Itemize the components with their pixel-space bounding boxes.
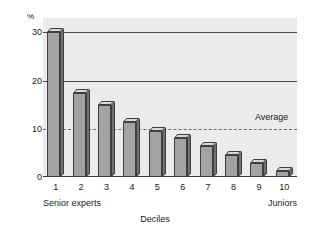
bar-front-face: [276, 171, 289, 177]
x-axis-tick-4: 4: [120, 182, 144, 193]
bar-front-face: [174, 138, 187, 177]
x-axis-title: Deciles: [0, 214, 310, 224]
bar: [225, 151, 242, 177]
bar: [250, 159, 267, 177]
x-axis-tick-5: 5: [145, 182, 169, 193]
gridline-20: [43, 81, 297, 82]
bar-front-face: [123, 122, 136, 177]
bar-side-face: [162, 128, 166, 177]
x-axis-tick-8: 8: [222, 182, 246, 193]
gridline-30: [43, 32, 297, 33]
bar-front-face: [73, 93, 86, 177]
x-axis-tick-7: 7: [196, 182, 220, 193]
bar: [276, 167, 293, 177]
axis-end-label-left: Senior experts: [43, 198, 101, 208]
bar: [73, 89, 90, 177]
bar-side-face: [86, 89, 90, 177]
x-axis-tick-10: 10: [272, 182, 296, 193]
bar-front-face: [225, 155, 238, 177]
bar-front-face: [250, 163, 263, 177]
bar: [98, 101, 115, 177]
x-axis-tick-2: 2: [69, 182, 93, 193]
y-axis-tick-30: 30: [32, 27, 42, 37]
bar-side-face: [187, 135, 191, 177]
bar-side-face: [111, 101, 115, 177]
y-axis-tick-0: 0: [37, 172, 42, 182]
bar-chart: % 0102030 12345678910 Average Senior exp…: [0, 0, 310, 233]
bar-front-face: [149, 131, 162, 177]
y-axis-unit-label: %: [27, 12, 34, 21]
bar: [123, 118, 140, 177]
bar: [149, 127, 166, 177]
axis-end-label-right: Juniors: [268, 198, 297, 208]
bar-side-face: [213, 142, 217, 177]
average-line-label: Average: [255, 112, 288, 122]
x-axis-tick-9: 9: [247, 182, 271, 193]
x-axis-tick-3: 3: [95, 182, 119, 193]
bar-side-face: [136, 118, 140, 177]
bar-side-face: [60, 29, 64, 177]
x-axis-tick-6: 6: [171, 182, 195, 193]
bar-front-face: [47, 32, 60, 177]
bar-front-face: [200, 146, 213, 177]
bar-side-face: [238, 152, 242, 177]
y-axis-tick-20: 20: [32, 76, 42, 86]
bar-front-face: [98, 105, 111, 177]
bar: [47, 28, 64, 177]
bar: [174, 134, 191, 177]
y-axis-tick-10: 10: [32, 124, 42, 134]
x-axis-tick-1: 1: [44, 182, 68, 193]
bar: [200, 142, 217, 177]
